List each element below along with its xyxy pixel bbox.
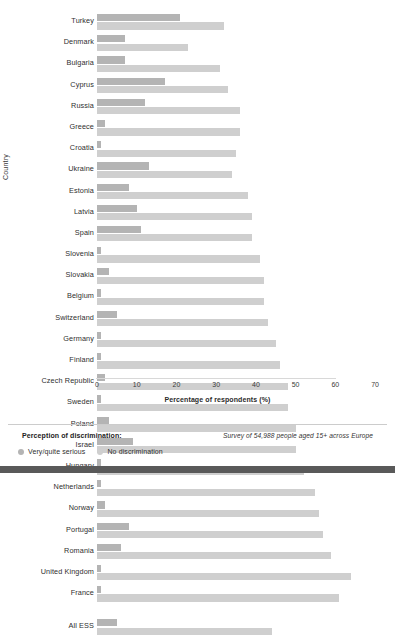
bar-very-quite-serious: [97, 332, 101, 339]
x-tick-label: 70: [371, 381, 379, 388]
bar-no-discrimination: [97, 573, 351, 580]
bar-group: [97, 35, 387, 54]
bar-no-discrimination: [97, 171, 232, 178]
category-label: Norway: [0, 503, 94, 512]
bar-group: [97, 226, 387, 245]
bar-very-quite-serious: [97, 289, 101, 296]
legend-swatch-icon: [97, 449, 103, 455]
category-label: Spain: [0, 228, 94, 237]
category-label: Latvia: [0, 207, 94, 216]
bar-very-quite-serious: [97, 501, 105, 508]
category-label: Cyprus: [0, 80, 94, 89]
category-label: All ESS: [0, 621, 94, 630]
bar-row: Latvia: [0, 204, 395, 225]
bar-row: Estonia: [0, 183, 395, 204]
bar-group: [97, 184, 387, 203]
x-tick-label: 50: [292, 381, 300, 388]
bar-group: [97, 99, 387, 118]
bar-very-quite-serious: [97, 184, 129, 191]
bar-group: [97, 120, 387, 139]
bar-no-discrimination: [97, 150, 236, 157]
category-label: Portugal: [0, 525, 94, 534]
bar-very-quite-serious: [97, 35, 125, 42]
category-label: Slovakia: [0, 270, 94, 279]
bar-no-discrimination: [97, 361, 280, 368]
bar-very-quite-serious: [97, 523, 129, 530]
bar-very-quite-serious: [97, 226, 141, 233]
bar-very-quite-serious: [97, 311, 117, 318]
plot-area: Country TurkeyDenmarkBulgariaCyprusRussi…: [0, 0, 395, 400]
bar-row: Netherlands: [0, 479, 395, 500]
bar-very-quite-serious: [97, 56, 125, 63]
bar-very-quite-serious: [97, 565, 101, 572]
bar-group: [97, 78, 387, 97]
bar-row-total: All ESS: [0, 618, 395, 639]
category-label: Switzerland: [0, 313, 94, 322]
legend-label: Very/quite serious: [28, 448, 85, 455]
legend-title: Perception of discrimination:: [22, 432, 122, 439]
bar-very-quite-serious: [97, 480, 101, 487]
bar-group: [97, 56, 387, 75]
bar-group: [97, 544, 387, 563]
category-label: Slovenia: [0, 249, 94, 258]
category-label: Netherlands: [0, 482, 94, 491]
legend-item[interactable]: Very/quite serious: [18, 448, 85, 455]
x-axis-label-wrap: Percentage of respondents (%): [0, 396, 395, 403]
bar-group: [97, 311, 387, 330]
category-label: Croatia: [0, 143, 94, 152]
bar-no-discrimination: [97, 628, 272, 635]
category-label: Belgium: [0, 291, 94, 300]
bar-very-quite-serious: [97, 417, 109, 424]
footer-accent-bar: [0, 466, 395, 473]
bar-very-quite-serious: [97, 619, 117, 626]
category-label: Ukraine: [0, 164, 94, 173]
x-tick-label: 0: [95, 381, 99, 388]
category-label: Estonia: [0, 186, 94, 195]
bar-no-discrimination: [97, 404, 288, 411]
bar-no-discrimination: [97, 298, 264, 305]
bar-row: Belgium: [0, 288, 395, 309]
bar-group: [97, 565, 387, 584]
bar-row: Norway: [0, 500, 395, 521]
bar-row: Spain: [0, 225, 395, 246]
bar-very-quite-serious: [97, 162, 149, 169]
category-label: France: [0, 588, 94, 597]
legend-item[interactable]: No discrimination: [97, 448, 162, 455]
bar-row: Germany: [0, 331, 395, 352]
bar-row: Portugal: [0, 522, 395, 543]
survey-note: Survey of 54,988 people aged 15+ across …: [223, 432, 373, 439]
bar-very-quite-serious: [97, 120, 105, 127]
bar-row: Switzerland: [0, 310, 395, 331]
bar-row: Greece: [0, 119, 395, 140]
x-tick-label: 30: [212, 381, 220, 388]
bar-row: United Kingdom: [0, 564, 395, 585]
bar-very-quite-serious: [97, 78, 165, 85]
x-tick-label: 60: [331, 381, 339, 388]
bar-no-discrimination: [97, 531, 323, 538]
bar-very-quite-serious: [97, 99, 145, 106]
bar-no-discrimination: [97, 340, 276, 347]
bar-no-discrimination: [97, 552, 331, 559]
bar-no-discrimination: [97, 128, 240, 135]
bar-no-discrimination: [97, 255, 260, 262]
bar-row: Romania: [0, 543, 395, 564]
bar-no-discrimination: [97, 107, 240, 114]
category-label: United Kingdom: [0, 567, 94, 576]
category-label: Bulgaria: [0, 58, 94, 67]
legend-swatch-icon: [18, 449, 24, 455]
bar-no-discrimination: [97, 594, 339, 601]
bar-no-discrimination: [97, 86, 228, 93]
x-tick-label: 20: [173, 381, 181, 388]
bar-group: [97, 247, 387, 266]
bar-very-quite-serious: [97, 141, 101, 148]
bar-row: Russia: [0, 98, 395, 119]
category-label: Turkey: [0, 16, 94, 25]
category-label: Russia: [0, 101, 94, 110]
bar-no-discrimination: [97, 319, 268, 326]
bar-row: Croatia: [0, 140, 395, 161]
bar-row: Slovenia: [0, 246, 395, 267]
bar-group: [97, 14, 387, 33]
bar-row: Ukraine: [0, 161, 395, 182]
category-label: Denmark: [0, 37, 94, 46]
